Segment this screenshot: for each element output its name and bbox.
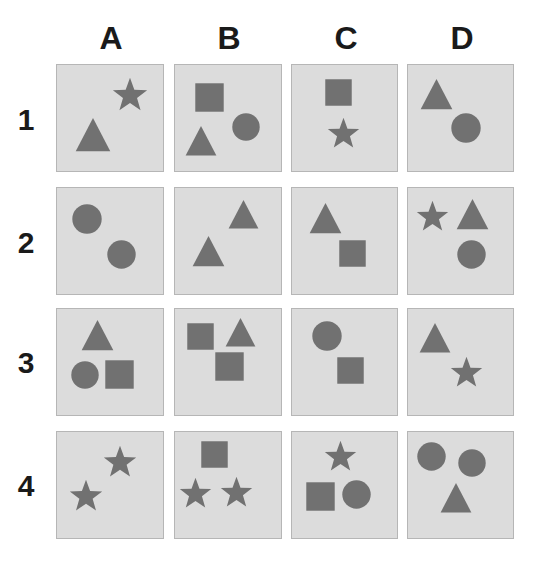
circle-shape bbox=[451, 113, 481, 143]
shape-panel bbox=[407, 187, 514, 295]
square-shape bbox=[105, 360, 134, 389]
cell-c2[interactable] bbox=[288, 181, 404, 304]
star-shape bbox=[416, 200, 449, 233]
row-header-4: 4 bbox=[0, 422, 52, 550]
shape-panel bbox=[56, 431, 164, 539]
shape-panel bbox=[291, 308, 398, 416]
circle-shape bbox=[72, 204, 102, 234]
star-shape bbox=[103, 445, 137, 479]
cell-b3[interactable] bbox=[170, 304, 288, 422]
square-shape bbox=[195, 83, 224, 112]
triangle-shape bbox=[309, 202, 342, 235]
shape-panel bbox=[291, 187, 398, 295]
triangle-shape bbox=[419, 322, 451, 354]
shape-panel bbox=[291, 64, 398, 172]
triangle-shape bbox=[225, 317, 256, 348]
shape-panel bbox=[56, 308, 164, 416]
square-shape bbox=[215, 352, 244, 381]
cell-b4[interactable] bbox=[170, 422, 288, 550]
square-shape bbox=[201, 441, 228, 468]
shape-panel bbox=[56, 187, 164, 295]
column-label: B bbox=[217, 22, 240, 54]
triangle-shape bbox=[440, 482, 472, 514]
column-header-c: C bbox=[288, 0, 404, 58]
square-shape bbox=[306, 482, 335, 511]
star-shape bbox=[450, 356, 483, 389]
row-header-3: 3 bbox=[0, 304, 52, 422]
column-label: D bbox=[450, 22, 473, 54]
column-header-d: D bbox=[404, 0, 520, 58]
cell-c3[interactable] bbox=[288, 304, 404, 422]
row-label: 2 bbox=[18, 228, 35, 258]
circle-shape bbox=[107, 240, 136, 269]
square-shape bbox=[187, 323, 214, 350]
column-header-b: B bbox=[170, 0, 288, 58]
star-shape bbox=[327, 117, 360, 150]
triangle-shape bbox=[185, 125, 217, 157]
triangle-shape bbox=[228, 199, 259, 230]
row-label: 1 bbox=[18, 105, 35, 135]
row-label: 3 bbox=[18, 348, 35, 378]
row-header-1: 1 bbox=[0, 58, 52, 181]
cell-d4[interactable] bbox=[404, 422, 520, 550]
cell-c1[interactable] bbox=[288, 58, 404, 181]
circle-shape bbox=[417, 442, 446, 471]
cell-c4[interactable] bbox=[288, 422, 404, 550]
square-shape bbox=[337, 357, 364, 384]
cell-a1[interactable] bbox=[52, 58, 170, 181]
square-shape bbox=[339, 240, 366, 267]
shape-panel bbox=[407, 431, 514, 539]
circle-shape bbox=[232, 113, 260, 141]
star-shape bbox=[179, 477, 212, 510]
circle-shape bbox=[312, 321, 342, 351]
grid-container: A B C D 1 2 3 4 bbox=[0, 0, 534, 567]
triangle-shape bbox=[75, 117, 111, 153]
shape-panel bbox=[174, 64, 282, 172]
triangle-shape bbox=[192, 235, 225, 268]
shape-panel bbox=[407, 64, 514, 172]
cell-a2[interactable] bbox=[52, 181, 170, 304]
triangle-shape bbox=[456, 198, 489, 231]
star-shape bbox=[112, 77, 148, 113]
shape-grid-figure: A B C D 1 2 3 4 bbox=[0, 0, 534, 567]
row-label: 4 bbox=[18, 471, 35, 501]
cell-d2[interactable] bbox=[404, 181, 520, 304]
star-shape bbox=[324, 440, 357, 473]
shape-panel bbox=[291, 431, 398, 539]
triangle-shape bbox=[420, 78, 453, 111]
shape-panel bbox=[174, 308, 282, 416]
shape-panel bbox=[174, 431, 282, 539]
circle-shape bbox=[457, 240, 486, 269]
square-shape bbox=[325, 79, 352, 106]
cell-d3[interactable] bbox=[404, 304, 520, 422]
shape-panel bbox=[407, 308, 514, 416]
cell-a3[interactable] bbox=[52, 304, 170, 422]
shape-panel bbox=[174, 187, 282, 295]
cell-d1[interactable] bbox=[404, 58, 520, 181]
cell-a4[interactable] bbox=[52, 422, 170, 550]
star-shape bbox=[69, 479, 103, 513]
shape-panel bbox=[56, 64, 164, 172]
star-shape bbox=[220, 476, 253, 509]
cell-b2[interactable] bbox=[170, 181, 288, 304]
column-label: A bbox=[99, 22, 122, 54]
circle-shape bbox=[342, 480, 371, 509]
grid-corner-spacer bbox=[0, 0, 52, 58]
row-header-2: 2 bbox=[0, 181, 52, 304]
cell-b1[interactable] bbox=[170, 58, 288, 181]
column-label: C bbox=[334, 22, 357, 54]
circle-shape bbox=[71, 361, 99, 389]
column-header-a: A bbox=[52, 0, 170, 58]
circle-shape bbox=[458, 449, 486, 477]
triangle-shape bbox=[81, 319, 114, 352]
